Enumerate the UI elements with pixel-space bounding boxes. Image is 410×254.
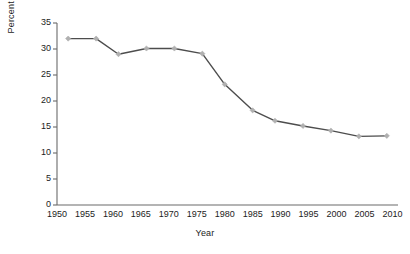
line-chart-figure: Percent Unionized Year 05101520253035195… (0, 0, 410, 254)
y-axis-tick-label: 25 (29, 69, 51, 79)
x-axis-tick-label: 1960 (98, 209, 128, 219)
y-axis-ticks (53, 23, 57, 205)
x-axis-tick-label: 1990 (266, 209, 296, 219)
data-point-marker (172, 46, 177, 51)
data-point-marker (144, 46, 149, 51)
data-series-layer (66, 36, 390, 139)
x-axis-tick-label: 2010 (377, 209, 407, 219)
data-point-marker (300, 123, 305, 128)
x-axis-tick-label: 1985 (238, 209, 268, 219)
x-axis-tick-label: 2005 (349, 209, 379, 219)
y-axis-tick-label: 5 (29, 173, 51, 183)
x-axis-tick-label: 1950 (42, 209, 72, 219)
x-axis-tick-label: 1980 (210, 209, 240, 219)
y-axis-title: Percent Unionized (6, 0, 16, 50)
x-axis-tick-label: 1965 (126, 209, 156, 219)
data-point-marker (272, 118, 277, 123)
x-axis-tick-label: 1975 (182, 209, 212, 219)
y-axis-tick-label: 20 (29, 95, 51, 105)
data-point-marker (356, 134, 361, 139)
y-axis-tick-label: 35 (29, 17, 51, 27)
x-axis-tick-label: 2000 (322, 209, 352, 219)
axis-spines (57, 23, 398, 205)
data-point-marker (384, 133, 389, 138)
chart-page: Percent Unionized Year 05101520253035195… (0, 0, 410, 254)
data-point-marker (328, 128, 333, 133)
series-line (68, 39, 387, 137)
data-point-marker (66, 36, 71, 41)
x-axis-title: Year (0, 228, 410, 238)
x-axis-tick-label: 1955 (70, 209, 100, 219)
x-axis-tick-label: 1995 (294, 209, 324, 219)
y-axis-tick-label: 0 (29, 199, 51, 209)
x-axis-tick-label: 1970 (154, 209, 184, 219)
y-axis-tick-label: 15 (29, 121, 51, 131)
y-axis-tick-label: 30 (29, 43, 51, 53)
y-axis-tick-label: 10 (29, 147, 51, 157)
